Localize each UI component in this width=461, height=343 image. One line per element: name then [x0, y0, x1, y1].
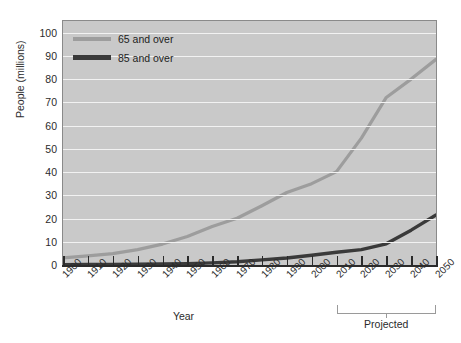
gridline — [63, 242, 436, 243]
y-axis-title: People (millions) — [14, 40, 26, 118]
y-axis-tick-label: 20 — [31, 214, 57, 225]
projected-label: Projected — [337, 318, 437, 330]
legend-swatch-icon-65 — [73, 37, 111, 41]
x-axis-tick — [88, 256, 90, 266]
gridline — [63, 149, 436, 150]
gridline — [63, 219, 436, 220]
legend-label-85: 85 and over — [118, 52, 173, 64]
x-axis-tick — [436, 256, 438, 266]
x-axis-tick — [212, 256, 214, 266]
x-axis-tick — [262, 256, 264, 266]
x-axis-tick — [163, 256, 165, 266]
gridline — [63, 79, 436, 80]
x-axis-tick — [113, 256, 115, 266]
y-axis-tick-label: 70 — [31, 97, 57, 108]
y-axis-tick-label: 40 — [31, 167, 57, 178]
gridline — [63, 126, 436, 127]
y-axis-tick-label: 90 — [31, 51, 57, 62]
x-axis-tick — [237, 256, 239, 266]
x-axis-tick — [386, 256, 388, 266]
x-axis-tick — [411, 256, 413, 266]
gridline — [63, 102, 436, 103]
x-axis-tick — [337, 256, 339, 266]
legend-item-65-and-over: 65 and over — [73, 29, 173, 48]
y-axis-tick-label: 10 — [31, 237, 57, 248]
plot-area: 65 and over 85 and over — [62, 20, 437, 266]
x-axis-tick — [361, 256, 363, 266]
y-axis-tick-label: 30 — [31, 190, 57, 201]
y-axis-tick-label: 100 — [31, 28, 57, 39]
x-axis-tick — [138, 256, 140, 266]
x-axis-tick — [312, 256, 314, 266]
x-axis-tick — [287, 256, 289, 266]
y-axis-tick-label: 60 — [31, 121, 57, 132]
legend: 65 and over 85 and over — [73, 29, 173, 67]
chart-figure: People (millions) 0102030405060708090100… — [0, 0, 461, 343]
x-axis-title-text: Year — [173, 310, 194, 322]
x-axis-tick — [187, 256, 189, 266]
legend-label-65: 65 and over — [118, 33, 173, 45]
gridline — [63, 172, 436, 173]
x-axis-tick — [63, 256, 65, 266]
series-line-65-and-over — [63, 59, 436, 257]
y-axis-tick-label: 50 — [31, 144, 57, 155]
y-axis-tick-label: 80 — [31, 74, 57, 85]
gridline — [63, 195, 436, 196]
legend-item-85-and-over: 85 and over — [73, 48, 173, 67]
y-axis-tick-label: 0 — [31, 260, 57, 271]
legend-swatch-icon-85 — [73, 55, 111, 60]
